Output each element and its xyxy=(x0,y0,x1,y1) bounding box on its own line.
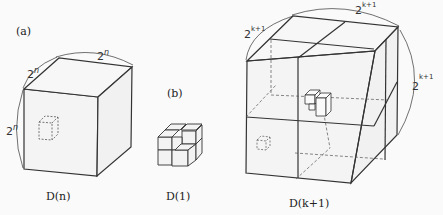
figure: (a) 2n 2n 2n D(n) (b) D(1) xyxy=(0,0,443,215)
cube-diagram: (a) 2n 2n 2n D(n) (b) D(1) xyxy=(0,0,443,215)
caption-d-n: D(n) xyxy=(46,190,71,203)
edge-label-c-side: 2k+1 xyxy=(412,73,433,93)
edge-label-c-left: 2k+1 xyxy=(244,25,265,41)
cube-d-1 xyxy=(158,124,202,166)
panel-b-tag: (b) xyxy=(167,87,183,100)
edge-label-a-top: 2n xyxy=(97,48,109,63)
panel-a-tag: (a) xyxy=(16,25,31,38)
edge-label-a-side: 2n xyxy=(6,123,18,138)
edge-label-c-top: 2k+1 xyxy=(355,1,376,17)
caption-d-k-plus-1: D(k+1) xyxy=(289,197,329,210)
caption-d-1: D(1) xyxy=(166,190,190,203)
